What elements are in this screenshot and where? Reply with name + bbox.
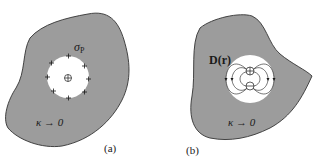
- center-positive-charge-icon: [65, 75, 72, 82]
- panel-a: σP κ → 0 (a): [6, 13, 129, 155]
- dipole-negative-icon: [246, 82, 254, 90]
- displacement-field-label: D(r): [209, 53, 231, 67]
- dipole-positive-icon: [246, 67, 254, 75]
- caption-a: (a): [104, 142, 117, 155]
- conductivity-label-a: κ → 0: [36, 116, 64, 128]
- conductivity-label-b: κ → 0: [228, 116, 256, 128]
- panel-b: D(r) κ → 0 (b): [186, 15, 312, 157]
- cavity-b: [226, 55, 274, 103]
- caption-b: (b): [186, 144, 199, 157]
